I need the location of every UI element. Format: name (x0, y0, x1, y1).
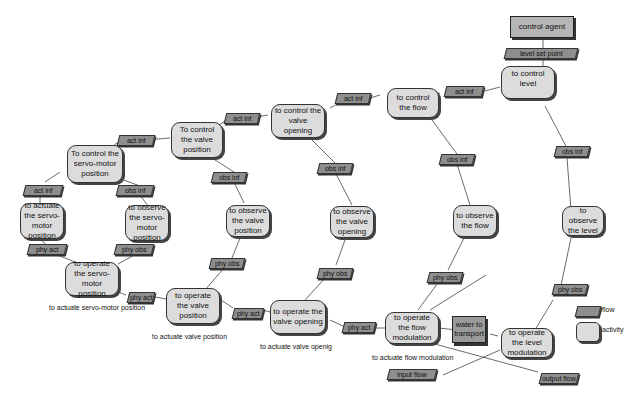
activity-control-servo-motor[interactable]: To control the servo-motor position (67, 145, 123, 183)
flow-label: obs inf (125, 186, 146, 196)
legend-activity-swatch (576, 322, 600, 342)
caption-actuate-servo: to actuate servo-motor position (49, 304, 145, 311)
flow-label: input flow (397, 370, 427, 380)
flow-label: act inf (34, 186, 53, 196)
flow-obs-inf-servo[interactable]: obs inf (116, 185, 155, 196)
activity-operate-level-modulation[interactable]: to operate the level modulation (501, 328, 553, 358)
flow-label: obs inf (219, 173, 240, 183)
flow-phy-act-valve-position[interactable]: phy act (232, 308, 265, 319)
flow-obs-inf-valve-opening[interactable]: obs inf (317, 163, 354, 174)
activity-operate-valve-opening[interactable]: to operate the valve opening (270, 300, 326, 334)
activity-operate-servo-motor[interactable]: to operate the servo-motor position (65, 262, 119, 296)
flow-act-inf-flow[interactable]: act inf (335, 93, 372, 104)
activity-operate-flow-modulation[interactable]: to operate the flow modulation (385, 312, 439, 344)
flow-phy-obs-level[interactable]: phy obs (552, 284, 589, 295)
flow-label: phy obs (433, 273, 458, 283)
flow-label: act inf (233, 114, 252, 124)
legend-activity-label: activity (602, 326, 623, 333)
flow-input-flow[interactable]: input flow (387, 369, 438, 380)
flow-phy-act-servo[interactable]: phy act (27, 244, 68, 255)
flow-label: obs inf (325, 164, 346, 174)
flow-phy-obs-valve-opening[interactable]: phy obs (317, 268, 354, 279)
activity-observe-valve-position[interactable]: to observe the valve position (226, 205, 270, 237)
flow-act-inf-valve-opening[interactable]: act inf (224, 113, 261, 124)
flow-obs-inf-level[interactable]: obs inf (554, 146, 591, 157)
resource-water-to-transport[interactable]: water to transport (452, 316, 486, 343)
caption-actuate-flow-modulation: to actuate flow modulation (372, 354, 453, 361)
activity-observe-valve-opening[interactable]: to observe the valve opening (330, 206, 374, 238)
activity-control-flow[interactable]: to control the flow (387, 88, 439, 118)
flow-label: phy act (36, 245, 59, 255)
activity-observe-flow[interactable]: to observe the flow (453, 205, 497, 237)
caption-actuate-valve-position: to actuate valve position (152, 333, 227, 340)
flow-label: phy act (237, 309, 260, 319)
flow-label: phy act (130, 293, 153, 303)
flow-label: act inf (344, 94, 363, 104)
flow-label: act inf (455, 87, 474, 97)
activity-operate-valve-position[interactable]: to operate the valve position (166, 288, 220, 324)
flow-act-inf-servo[interactable]: act inf (23, 185, 64, 196)
activity-observe-level[interactable]: to observe the level (562, 206, 604, 236)
flow-phy-act-servo-to-valve[interactable]: phy act (127, 292, 156, 303)
control-agent-box[interactable]: control agent (510, 16, 574, 38)
flow-label: act inf (127, 136, 146, 146)
flow-label: phy obs (558, 285, 583, 295)
flow-act-inf-valve-position[interactable]: act inf (117, 135, 156, 146)
flow-obs-inf-valve-position[interactable]: obs inf (211, 172, 248, 183)
caption-actuate-valve-opening: to actuate valve openig (260, 343, 332, 350)
flow-obs-inf-flow[interactable]: obs inf (439, 154, 476, 165)
flow-output-flow[interactable]: output flow (539, 373, 580, 384)
flow-phy-obs-valve-position[interactable]: phy obs (209, 258, 246, 269)
activity-control-level[interactable]: to control level (501, 66, 555, 99)
flow-label: phy act (348, 323, 371, 333)
flow-label: phy obs (215, 259, 240, 269)
activity-observe-servo-motor[interactable]: to observe the servo-motor position (125, 205, 169, 241)
flow-phy-act-valve-opening[interactable]: phy act (342, 322, 377, 333)
flow-level-set-point[interactable]: level set point (504, 48, 579, 59)
flow-act-inf-level[interactable]: act inf (444, 86, 485, 97)
flow-phy-obs-flow[interactable]: phy obs (427, 272, 464, 283)
activity-actuate-servo-motor[interactable]: to actuate the servo-motor position (20, 203, 64, 239)
legend: flow activity (572, 306, 636, 346)
legend-flow-label: flow (602, 306, 614, 313)
activity-control-valve-position[interactable]: To control the valve position (171, 122, 223, 158)
flow-label: output flow (542, 374, 576, 384)
legend-flow-swatch (575, 306, 602, 317)
diagram-canvas: control agent level set point to control… (0, 0, 636, 407)
flow-phy-obs-servo[interactable]: phy obs (114, 244, 155, 255)
flow-label: phy obs (122, 245, 147, 255)
flow-label: obs inf (562, 147, 583, 157)
flow-label: level set point (519, 49, 562, 59)
flow-label: phy obs (323, 269, 348, 279)
flow-label: obs inf (447, 155, 468, 165)
activity-control-valve-opening[interactable]: to control the valve opening (271, 104, 325, 138)
